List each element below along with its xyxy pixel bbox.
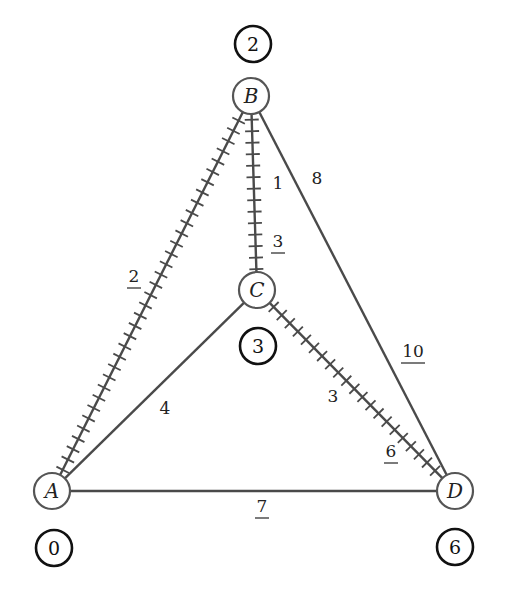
graph-diagram: A0B2C3D6 2138104367 bbox=[0, 0, 509, 610]
graph-canvas: A0B2C3D6 2138104367 bbox=[0, 0, 509, 610]
node-label: C bbox=[249, 278, 264, 302]
node-d: D6 bbox=[437, 473, 473, 565]
node-label: D bbox=[446, 479, 463, 503]
shortest-path-hatching bbox=[56, 117, 244, 472]
distance-badge-d: 6 bbox=[437, 529, 473, 565]
edge-weight-label: 1 bbox=[273, 173, 284, 193]
edge-line bbox=[60, 112, 243, 475]
nodes-layer: A0B2C3D6 bbox=[34, 26, 473, 566]
edge-weight-label: 10 bbox=[402, 341, 424, 361]
edge-weight-label: 4 bbox=[160, 398, 171, 418]
distance-badge-c: 3 bbox=[240, 328, 276, 364]
node-a: A0 bbox=[34, 473, 72, 566]
node-c: C3 bbox=[239, 272, 276, 364]
edge-line bbox=[65, 303, 244, 479]
node-label: A bbox=[43, 479, 59, 503]
distance-value: 2 bbox=[247, 33, 259, 55]
edge-a-b bbox=[56, 112, 244, 475]
edge-c-d bbox=[269, 302, 443, 478]
edge-weight-label: 3 bbox=[328, 386, 339, 406]
node-b: B2 bbox=[233, 26, 271, 114]
edge-weight-label: 3 bbox=[273, 231, 284, 251]
edge-b-c bbox=[245, 114, 264, 272]
distance-value: 0 bbox=[48, 537, 60, 559]
edge-weight-label: 6 bbox=[386, 441, 397, 461]
distance-value: 3 bbox=[252, 335, 264, 357]
edge-weight-label: 8 bbox=[312, 168, 323, 188]
distance-badge-a: 0 bbox=[36, 530, 72, 566]
edge-line bbox=[270, 303, 443, 478]
edge-line bbox=[259, 112, 446, 475]
edge-a-c bbox=[65, 303, 244, 479]
node-label: B bbox=[243, 84, 259, 108]
distance-value: 6 bbox=[449, 536, 461, 558]
distance-badge-b: 2 bbox=[235, 26, 271, 62]
edge-b-d bbox=[259, 112, 446, 475]
edge-line bbox=[252, 114, 257, 272]
edge-weight-label: 2 bbox=[129, 266, 140, 286]
edge-weight-label: 7 bbox=[257, 496, 268, 516]
